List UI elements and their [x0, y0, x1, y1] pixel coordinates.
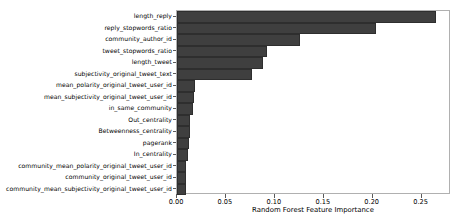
bar — [177, 69, 252, 81]
bar-row — [177, 69, 451, 81]
y-tick-label: length_reply — [0, 12, 172, 19]
bar-row — [177, 80, 451, 92]
y-tick-label: community_author_id — [0, 35, 172, 42]
bar — [177, 80, 195, 92]
y-tick-label: pagerank — [0, 139, 172, 146]
x-tick-label: 0.10 — [254, 198, 294, 206]
bar — [177, 11, 436, 23]
bar — [177, 34, 300, 46]
bar — [177, 23, 376, 35]
x-tick-label: 0.25 — [401, 198, 441, 206]
x-tick-mark — [176, 194, 177, 198]
bar — [177, 103, 193, 115]
y-tick-label: mean_subjectivity_original_tweet_user_id — [0, 93, 172, 100]
y-tick-label: community_original_tweet_user_id — [0, 173, 172, 180]
x-tick-mark — [372, 194, 373, 198]
bar — [177, 161, 186, 173]
bar-row — [177, 57, 451, 69]
bar-row — [177, 149, 451, 161]
y-axis-tick-labels: length_replyreply_stopwords_ratiocommuni… — [0, 10, 172, 194]
plot-area — [176, 10, 450, 194]
y-tick-label: length_tweet — [0, 58, 172, 65]
x-tick-label: 0.20 — [352, 198, 392, 206]
x-tick-label: 0.00 — [156, 198, 196, 206]
bar-row — [177, 103, 451, 115]
figure-canvas: length_replyreply_stopwords_ratiocommuni… — [0, 0, 473, 219]
y-tick-label: community_mean_subjectivity_original_twe… — [0, 185, 172, 192]
bar-row — [177, 138, 451, 150]
x-tick-mark — [323, 194, 324, 198]
y-tick-label: subjectivity_original_tweet_text — [0, 70, 172, 77]
bar-row — [177, 46, 451, 58]
y-tick-label: In_centrality — [0, 150, 172, 157]
bar-row — [177, 11, 451, 23]
x-tick-label: 0.15 — [303, 198, 343, 206]
bar — [177, 57, 263, 69]
bar — [177, 138, 189, 150]
bars-layer — [177, 11, 449, 193]
bar-row — [177, 34, 451, 46]
x-tick-mark — [225, 194, 226, 198]
bar-row — [177, 172, 451, 184]
y-tick-label: tweet_stopwords_ratio — [0, 47, 172, 54]
x-tick-mark — [421, 194, 422, 198]
x-tick-mark — [274, 194, 275, 198]
bar-row — [177, 92, 451, 104]
bar-row — [177, 23, 451, 35]
bar-row — [177, 161, 451, 173]
x-tick-label: 0.05 — [205, 198, 245, 206]
bar-row — [177, 115, 451, 127]
y-tick-label: reply_stopwords_ratio — [0, 24, 172, 31]
bar — [177, 92, 194, 104]
bar-row — [177, 126, 451, 138]
bar — [177, 126, 190, 138]
y-tick-label: Out_centrality — [0, 116, 172, 123]
y-tick-label: mean_polarity_original_tweet_user_id — [0, 81, 172, 88]
x-axis-title: Random Forest Feature Importance — [176, 206, 450, 215]
y-tick-label: in_same_community — [0, 104, 172, 111]
bar — [177, 115, 190, 127]
y-tick-label: Betweenness_centrality — [0, 127, 172, 134]
bar — [177, 149, 188, 161]
y-tick-label: community_mean_polarity_original_tweet_u… — [0, 162, 172, 169]
bar — [177, 46, 267, 58]
bar — [177, 172, 186, 184]
